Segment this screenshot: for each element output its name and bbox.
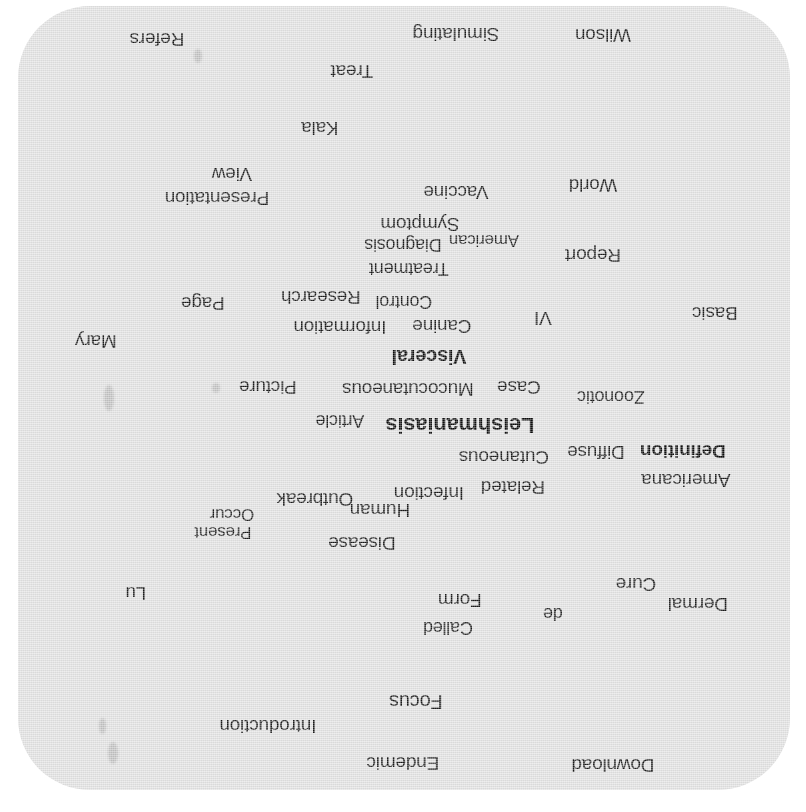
word-cloud-term: Kala bbox=[301, 119, 338, 138]
word-cloud-term: Introduction bbox=[220, 717, 317, 736]
scan-smudge bbox=[104, 385, 114, 411]
word-cloud-term: Disease bbox=[328, 534, 395, 553]
word-cloud-term: Treat bbox=[331, 62, 374, 81]
word-cloud-term: Present bbox=[194, 524, 251, 541]
word-cloud-term: VI bbox=[534, 309, 552, 328]
word-cloud-term: Control bbox=[376, 293, 433, 311]
word-cloud-term: Cutaneous bbox=[459, 448, 549, 467]
word-cloud-term: Canine bbox=[412, 317, 471, 336]
scan-smudge bbox=[194, 49, 202, 63]
word-cloud-term: Outbreak bbox=[277, 490, 354, 509]
word-cloud-term: Case bbox=[497, 378, 541, 397]
word-cloud-term: Treatment bbox=[369, 260, 449, 278]
scan-smudge bbox=[99, 718, 106, 734]
word-cloud-term: Zoonotic bbox=[577, 388, 644, 406]
word-cloud-term: Report bbox=[565, 246, 621, 265]
word-cloud-term: View bbox=[212, 165, 252, 184]
word-cloud-term: World bbox=[569, 176, 617, 195]
scan-smudge bbox=[212, 383, 220, 393]
word-cloud-term: Picture bbox=[239, 378, 297, 397]
word-cloud-term: Presentation bbox=[165, 189, 269, 208]
word-cloud-term: Endemic bbox=[367, 754, 440, 773]
word-cloud-term: Download bbox=[572, 756, 655, 775]
scan-smudge bbox=[108, 742, 118, 764]
word-cloud-term: Mary bbox=[75, 332, 116, 351]
word-cloud-term: Americana bbox=[641, 471, 730, 490]
word-cloud-term: American bbox=[449, 232, 519, 249]
word-cloud-term: Lu bbox=[126, 584, 147, 603]
word-cloud-rotor: DownloadEndemicIntroductionFocusCalledde… bbox=[18, 6, 790, 790]
word-cloud-term: Cure bbox=[616, 575, 656, 594]
word-cloud-term: Vaccine bbox=[424, 183, 489, 202]
word-cloud-term: Mucocutaneous bbox=[342, 380, 474, 399]
word-cloud-term: Infection bbox=[394, 484, 464, 503]
word-cloud-term: Information bbox=[294, 318, 387, 337]
word-cloud-term: Refers bbox=[130, 30, 185, 49]
word-cloud-term: Basic bbox=[692, 304, 737, 323]
word-cloud-term: Page bbox=[181, 294, 225, 313]
word-cloud-term: Leishmaniasis bbox=[385, 414, 534, 436]
word-cloud-panel: DownloadEndemicIntroductionFocusCalledde… bbox=[18, 6, 790, 790]
word-cloud-term: Form bbox=[438, 591, 482, 610]
word-cloud-term: Wilson bbox=[575, 26, 631, 45]
word-cloud-term: Dermal bbox=[668, 595, 728, 614]
word-cloud-term: Symptom bbox=[381, 215, 460, 234]
word-cloud-term: Article bbox=[316, 412, 365, 430]
word-cloud-term: Related bbox=[481, 478, 545, 497]
word-cloud-term: Focus bbox=[389, 692, 442, 712]
word-cloud-term: Diffuse bbox=[567, 443, 624, 462]
screenshot-canvas: DownloadEndemicIntroductionFocusCalledde… bbox=[0, 0, 806, 812]
word-cloud-term: Occur bbox=[210, 506, 254, 523]
word-cloud-term: Diagnosis bbox=[364, 236, 441, 254]
word-cloud-term: Definition bbox=[640, 442, 726, 461]
word-cloud-term: Research bbox=[281, 288, 361, 307]
word-cloud-term: Visceral bbox=[392, 347, 467, 367]
word-cloud-term: Called bbox=[423, 619, 473, 637]
word-cloud-term: de bbox=[543, 605, 563, 623]
word-cloud-term: Simulating bbox=[413, 25, 500, 44]
